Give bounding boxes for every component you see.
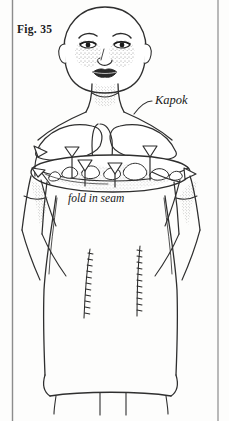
hem-and-legs: [54, 393, 168, 415]
eye-right: [114, 42, 130, 48]
kapok-stuffing: [40, 156, 188, 194]
kapok-callout-label: Kapok: [155, 93, 188, 108]
figure-artwork: [22, 7, 200, 415]
torso-outline: [44, 196, 178, 396]
dart-seam-left: [84, 249, 93, 318]
eye-left: [80, 42, 96, 48]
torso-contour: [49, 198, 172, 274]
doll-torso-illustration: [0, 0, 229, 421]
figure-page: Fig. 35 Kapok fold in seam: [0, 0, 229, 421]
fold-in-seam-callout-label: fold in seam: [68, 192, 124, 204]
kapok-leader-line: [134, 101, 152, 114]
figure-number-label: Fig. 35: [17, 23, 52, 35]
dart-seam-right: [137, 246, 142, 316]
arm-shading-left: [26, 176, 54, 232]
neck-shading: [88, 82, 124, 112]
arm-shading-right: [170, 176, 198, 232]
